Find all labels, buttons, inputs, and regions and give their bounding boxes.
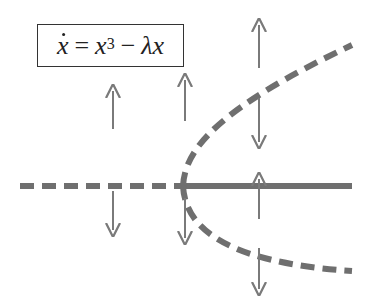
lower-unstable-branch: [183, 186, 352, 271]
equation-term1: x: [95, 31, 107, 61]
equation-term2: λx: [141, 31, 164, 61]
equation-minus: −: [121, 31, 136, 61]
equation-exponent: 3: [107, 35, 115, 53]
upper-unstable-branch: [183, 45, 352, 186]
equation-lhs: x: [57, 31, 69, 61]
equation-box: x = x3 − λx: [37, 24, 184, 67]
equation-equals: =: [74, 31, 89, 61]
